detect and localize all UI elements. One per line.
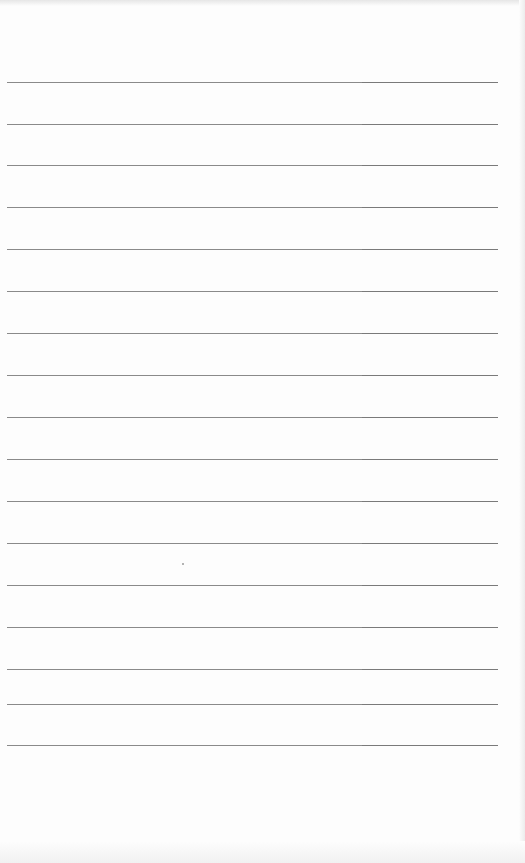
ruled-line bbox=[7, 501, 498, 502]
ruled-line-right-segment bbox=[362, 333, 498, 334]
ruled-line-right-segment bbox=[362, 291, 498, 292]
ruled-line-right-segment bbox=[362, 249, 498, 250]
ruled-line-right-segment bbox=[362, 207, 498, 208]
ruled-line-right-segment bbox=[362, 124, 498, 125]
ruled-line-right-segment bbox=[362, 745, 498, 746]
ruled-line bbox=[7, 627, 498, 628]
bottom-edge-shadow bbox=[0, 841, 525, 863]
ruled-line-right-segment bbox=[362, 417, 498, 418]
ruled-line bbox=[7, 704, 498, 705]
ruled-line-right-segment bbox=[362, 501, 498, 502]
right-edge-shadow bbox=[519, 0, 525, 863]
ruled-line bbox=[7, 165, 498, 166]
ruled-line-right-segment bbox=[362, 585, 498, 586]
ruled-line-right-segment bbox=[362, 669, 498, 670]
ruled-line-right-segment bbox=[362, 459, 498, 460]
ruled-line bbox=[7, 417, 498, 418]
lined-paper-page bbox=[0, 0, 525, 863]
ruled-line bbox=[7, 585, 498, 586]
ruled-line-right-segment bbox=[362, 165, 498, 166]
ruled-line bbox=[7, 207, 498, 208]
top-edge-shadow bbox=[0, 0, 525, 6]
ruled-line-right-segment bbox=[362, 704, 498, 705]
ruled-line bbox=[7, 543, 498, 544]
ruled-line bbox=[7, 333, 498, 334]
paper-speck bbox=[182, 563, 184, 565]
ruled-line bbox=[7, 375, 498, 376]
ruled-line bbox=[7, 82, 498, 83]
ruled-line-right-segment bbox=[362, 82, 498, 83]
ruled-line bbox=[7, 745, 498, 746]
ruled-line-right-segment bbox=[362, 375, 498, 376]
ruled-line bbox=[7, 249, 498, 250]
ruled-line bbox=[7, 669, 498, 670]
ruled-line bbox=[7, 124, 498, 125]
ruled-line bbox=[7, 291, 498, 292]
ruled-line-right-segment bbox=[362, 543, 498, 544]
ruled-line-right-segment bbox=[362, 627, 498, 628]
ruled-line bbox=[7, 459, 498, 460]
